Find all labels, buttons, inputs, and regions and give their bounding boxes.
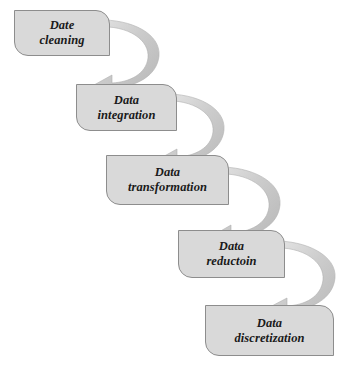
stage-label-data-transformation: Data transformation	[123, 165, 212, 195]
stage-label-data-cleaning: Date cleaning	[34, 18, 89, 48]
stage-label-line2: cleaning	[39, 33, 84, 47]
stage-box-data-transformation[interactable]: Data transformation	[106, 155, 229, 205]
stage-box-data-reduction[interactable]: Data reductoin	[178, 230, 285, 278]
stage-label-data-reduction: Data reductoin	[201, 239, 261, 269]
stage-box-data-discretization[interactable]: Data discretization	[205, 305, 334, 356]
stage-label-line2: integration	[97, 108, 155, 122]
stage-label-line1: Data	[114, 93, 139, 107]
stage-label-line1: Date	[50, 18, 75, 32]
stage-box-data-integration[interactable]: Data integration	[76, 84, 177, 131]
stage-label-line1: Data	[155, 165, 180, 179]
diagram-canvas: Date cleaning Data integration Data tran…	[0, 0, 346, 372]
stage-label-line1: Data	[219, 239, 244, 253]
stage-label-line2: reductoin	[206, 254, 256, 268]
stage-label-data-integration: Data integration	[92, 93, 160, 123]
stage-label-line2: transformation	[128, 180, 207, 194]
stage-box-data-cleaning[interactable]: Date cleaning	[14, 10, 110, 56]
stage-label-data-discretization: Data discretization	[229, 316, 309, 346]
stage-label-line1: Data	[257, 316, 282, 330]
stage-label-line2: discretization	[234, 331, 304, 345]
